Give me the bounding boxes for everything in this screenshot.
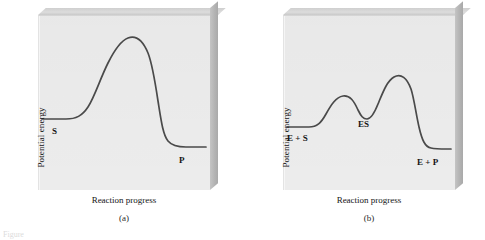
panel-b-intermediate-label: ES — [358, 120, 369, 129]
panel-a: S P — [38, 8, 218, 190]
panel-b: E + S ES E + P — [283, 8, 463, 190]
figure-root: S P Potential energy Reaction progress (… — [0, 0, 485, 240]
figure-bottom-caption: Figure — [3, 231, 24, 240]
panel-a-y-axis-title: Potential energy — [37, 72, 46, 168]
panel-b-product-label: E + P — [417, 158, 438, 167]
panel-a-x-axis-title: Reaction progress — [38, 196, 210, 205]
panel-b-right-bevel — [455, 1, 463, 190]
panel-b-caption: (b) — [283, 214, 455, 223]
panel-a-top-bevel — [38, 8, 226, 15]
panel-b-top-bevel — [283, 8, 471, 15]
panel-a-right-bevel — [210, 1, 218, 190]
panel-a-substrate-label: S — [52, 127, 57, 136]
panel-a-caption: (a) — [38, 214, 210, 223]
panel-b-x-axis-title: Reaction progress — [283, 196, 455, 205]
panel-b-y-axis-title: Potential energy — [282, 72, 291, 168]
panel-a-product-label: P — [179, 156, 185, 165]
